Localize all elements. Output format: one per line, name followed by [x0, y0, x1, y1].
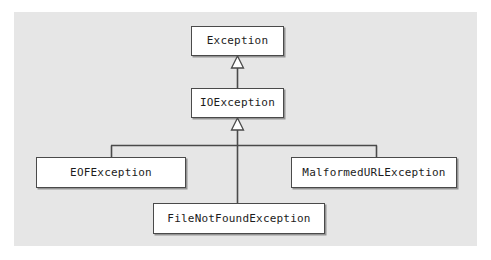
class-node-exception[interactable]: Exception: [191, 26, 284, 56]
class-node-malformedurlexception[interactable]: MalformedURLException: [291, 157, 457, 188]
class-node-label: IOException: [200, 97, 275, 109]
class-node-eofexception[interactable]: EOFException: [36, 157, 186, 188]
class-node-filenotfoundexception[interactable]: FileNotFoundException: [153, 203, 325, 234]
generalization-arrowhead-exception: [232, 56, 244, 68]
class-node-label: MalformedURLException: [302, 167, 445, 179]
class-node-label: FileNotFoundException: [167, 213, 310, 225]
generalization-arrowhead-ioexception: [232, 118, 244, 130]
class-diagram-canvas: Exception IOException EOFException Malfo…: [0, 0, 491, 260]
class-node-ioexception[interactable]: IOException: [191, 88, 284, 118]
class-node-label: EOFException: [70, 167, 152, 179]
class-node-label: Exception: [207, 35, 268, 47]
